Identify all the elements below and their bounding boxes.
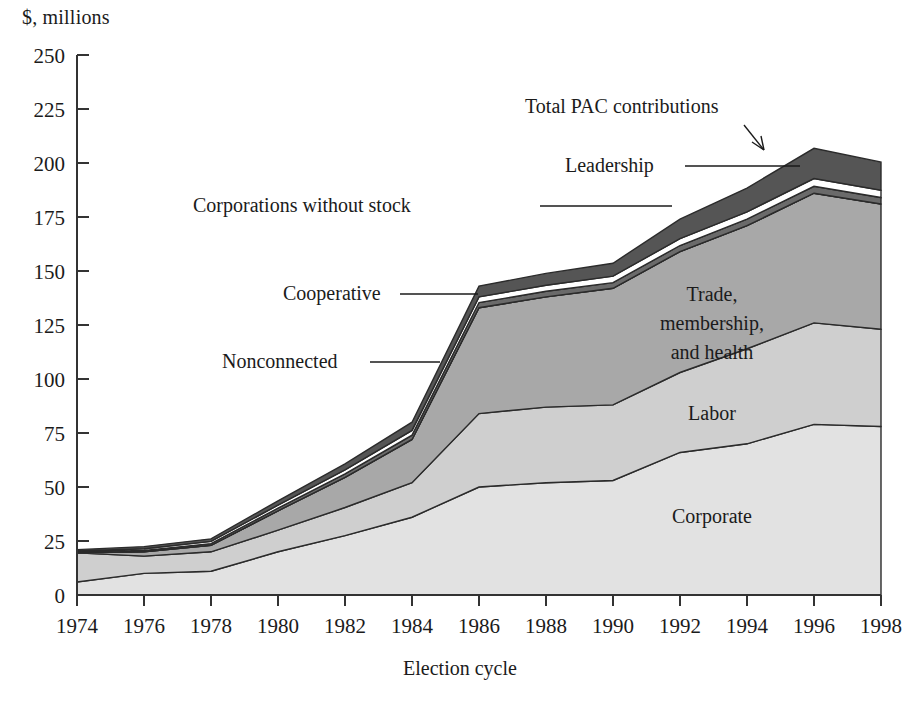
- annotation-cooperative: Cooperative: [283, 282, 381, 305]
- annotation-trade-line-2: membership,: [660, 312, 764, 335]
- x-tick-label-1980: 1980: [257, 614, 299, 638]
- x-tick-label-1974: 1974: [56, 614, 99, 638]
- y-tick-label-0: 0: [55, 584, 66, 608]
- x-tick-label-1984: 1984: [391, 614, 434, 638]
- annotation-corporate: Corporate: [672, 505, 752, 528]
- annotation-trade-line-3: and health: [671, 341, 754, 363]
- x-tick-label-1976: 1976: [123, 614, 165, 638]
- annotation-corporations-without-stock: Corporations without stock: [193, 194, 411, 217]
- y-tick-labels: 0255075100125150175200225250: [34, 44, 66, 608]
- annotation-total-pac-contributions: Total PAC contributions: [525, 95, 719, 117]
- annotation-nonconnected: Nonconnected: [222, 350, 338, 372]
- y-tick-label-200: 200: [34, 152, 66, 176]
- y-tick-label-175: 175: [34, 206, 66, 230]
- y-tick-label-100: 100: [34, 368, 66, 392]
- annotation-trade-line-1: Trade,: [687, 283, 738, 305]
- x-tick-label-1978: 1978: [190, 614, 232, 638]
- x-tick-label-1992: 1992: [659, 614, 701, 638]
- y-tick-label-125: 125: [34, 314, 66, 338]
- chart-plot-area: 0255075100125150175200225250 19741976197…: [0, 0, 920, 650]
- x-tick-labels: 1974197619781980198219841986198819901992…: [56, 614, 902, 638]
- x-tick-label-1982: 1982: [324, 614, 366, 638]
- x-tick-label-1988: 1988: [525, 614, 567, 638]
- y-tick-label-50: 50: [44, 476, 65, 500]
- stacked-area-chart: $, millions 0255075100125150175200225250…: [0, 0, 920, 725]
- y-tick-label-75: 75: [44, 422, 65, 446]
- y-tick-label-25: 25: [44, 530, 65, 554]
- x-tick-label-1998: 1998: [860, 614, 902, 638]
- y-axis-title: $, millions: [22, 6, 110, 29]
- x-tick-label-1990: 1990: [592, 614, 634, 638]
- x-tick-label-1996: 1996: [793, 614, 835, 638]
- annotation-labor: Labor: [688, 402, 736, 424]
- y-tick-label-225: 225: [34, 98, 66, 122]
- x-tick-label-1994: 1994: [726, 614, 769, 638]
- x-axis-title: Election cycle: [0, 657, 920, 680]
- annotation-leadership: Leadership: [565, 154, 654, 177]
- y-tick-label-150: 150: [34, 260, 66, 284]
- x-tick-label-1986: 1986: [458, 614, 500, 638]
- y-tick-label-250: 250: [34, 44, 66, 68]
